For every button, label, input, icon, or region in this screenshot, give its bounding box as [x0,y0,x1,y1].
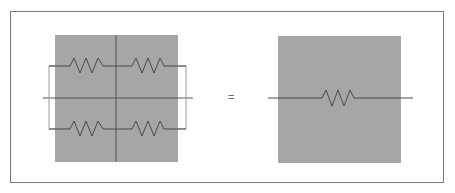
right-gray-square [278,36,401,163]
left-circuit [43,35,193,162]
right-circuit [268,36,413,163]
equals-sign: = [228,92,234,103]
